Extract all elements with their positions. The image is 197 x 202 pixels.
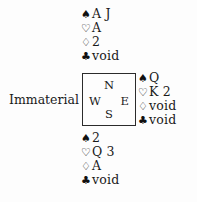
south-club-row: ♣ void bbox=[81, 173, 119, 187]
diamond-icon: ♢ bbox=[138, 100, 149, 114]
spade-icon: ♠ bbox=[138, 72, 149, 86]
club-icon: ♣ bbox=[81, 50, 92, 64]
north-club-holding: void bbox=[92, 49, 119, 63]
north-heart-holding: A bbox=[92, 21, 101, 35]
east-diamond-row: ♢ void bbox=[138, 99, 176, 113]
north-diamond-holding: 2 bbox=[92, 35, 100, 49]
east-diamond-holding: void bbox=[149, 99, 176, 113]
north-heart-row: ♡ A bbox=[81, 21, 119, 35]
compass-south-label: S bbox=[83, 108, 135, 120]
north-diamond-row: ♢ 2 bbox=[81, 35, 119, 49]
compass-west-label: W bbox=[89, 95, 101, 107]
east-heart-holding: K 2 bbox=[149, 85, 171, 99]
east-spade-row: ♠ Q bbox=[138, 71, 176, 85]
east-club-holding: void bbox=[149, 113, 176, 127]
compass-north-label: N bbox=[83, 79, 135, 91]
heart-icon: ♡ bbox=[81, 22, 92, 36]
spade-icon: ♠ bbox=[81, 132, 92, 146]
spade-icon: ♠ bbox=[81, 8, 92, 22]
south-spade-holding: 2 bbox=[92, 131, 100, 145]
compass-east-label: E bbox=[121, 95, 129, 107]
south-diamond-row: ♢ A bbox=[81, 159, 119, 173]
south-club-holding: void bbox=[92, 173, 119, 187]
north-spade-row: ♠ A J bbox=[81, 7, 119, 21]
compass-box: N W E S bbox=[82, 73, 136, 126]
heart-icon: ♡ bbox=[138, 86, 149, 100]
heart-icon: ♡ bbox=[81, 146, 92, 160]
hand-south: ♠ 2 ♡ Q 3 ♢ A ♣ void bbox=[81, 131, 119, 187]
hand-east: ♠ Q ♡ K 2 ♢ void ♣ void bbox=[138, 71, 176, 127]
south-heart-row: ♡ Q 3 bbox=[81, 145, 119, 159]
club-icon: ♣ bbox=[81, 174, 92, 188]
east-spade-holding: Q bbox=[149, 71, 159, 85]
diamond-icon: ♢ bbox=[81, 36, 92, 50]
south-spade-row: ♠ 2 bbox=[81, 131, 119, 145]
south-heart-holding: Q 3 bbox=[92, 145, 115, 159]
east-heart-row: ♡ K 2 bbox=[138, 85, 176, 99]
hand-west-note: Immaterial bbox=[9, 92, 79, 107]
bridge-deal-diagram: ♠ A J ♡ A ♢ 2 ♣ void Immaterial N W E S … bbox=[0, 0, 197, 202]
diamond-icon: ♢ bbox=[81, 160, 92, 174]
hand-north: ♠ A J ♡ A ♢ 2 ♣ void bbox=[81, 7, 119, 63]
north-spade-holding: A J bbox=[92, 7, 111, 21]
north-club-row: ♣ void bbox=[81, 49, 119, 63]
south-diamond-holding: A bbox=[92, 159, 101, 173]
east-club-row: ♣ void bbox=[138, 113, 176, 127]
club-icon: ♣ bbox=[138, 114, 149, 128]
